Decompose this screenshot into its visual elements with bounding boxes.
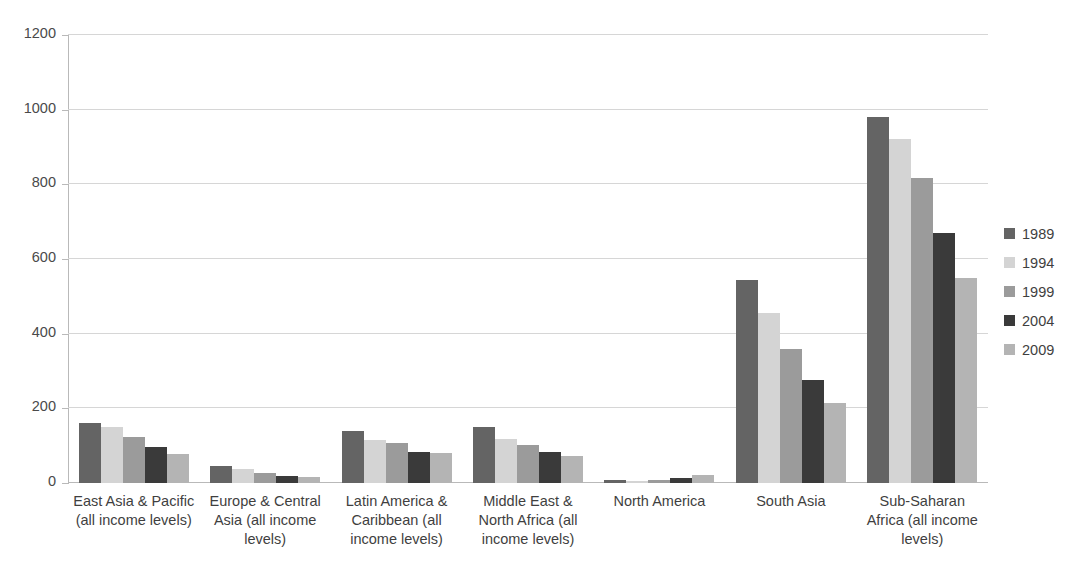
x-axis-label-line: Africa (all income [857,511,988,530]
legend-label: 2004 [1022,313,1054,329]
x-axis-label-line: Caribbean (all [331,511,462,530]
legend-swatch-icon [1004,228,1015,239]
bar[interactable] [101,427,123,483]
x-axis-label-line: North Africa (all [462,511,593,530]
bar[interactable] [342,431,364,483]
x-axis-label-line: levels) [199,530,330,549]
legend-item-2009[interactable]: 2009 [1004,335,1066,364]
x-axis-label: North America [594,492,725,511]
bar[interactable] [955,278,977,483]
x-axis-label-line: income levels) [331,530,462,549]
y-tick-mark [62,408,69,409]
bar[interactable] [867,117,889,483]
x-axis-label-line: levels) [857,530,988,549]
bar[interactable] [780,349,802,483]
x-axis-label-line: Latin America & [331,492,462,511]
bar[interactable] [911,178,933,483]
bar[interactable] [626,481,648,483]
y-tick-mark [62,483,69,484]
legend: 19891994199920042009 [1004,219,1066,364]
x-axis-label-line: income levels) [462,530,593,549]
bar[interactable] [364,440,386,483]
bar-group [867,35,977,483]
x-axis-label: Europe & CentralAsia (all incomelevels) [199,492,330,549]
y-tick-label: 600 [0,249,56,265]
bar[interactable] [430,453,452,483]
legend-swatch-icon [1004,257,1015,268]
x-axis-labels: East Asia & Pacific(all income levels)Eu… [68,492,988,570]
bar[interactable] [254,473,276,483]
bar-chart: 020040060080010001200 East Asia & Pacifi… [0,0,1066,573]
x-axis-label-line: North America [594,492,725,511]
bar[interactable] [889,139,911,483]
bar[interactable] [123,437,145,483]
legend-label: 1999 [1022,284,1054,300]
bar-group [604,35,714,483]
plot-area [68,35,988,483]
bar[interactable] [517,445,539,483]
y-tick-label: 400 [0,324,56,340]
y-tick-label: 1000 [0,100,56,116]
x-axis-label: East Asia & Pacific(all income levels) [68,492,199,530]
bar[interactable] [79,423,101,483]
y-tick-mark [62,184,69,185]
bar[interactable] [408,452,430,483]
x-axis-label: South Asia [725,492,856,511]
bar-group [342,35,452,483]
bar[interactable] [167,454,189,483]
bar[interactable] [604,480,626,483]
bar-group [210,35,320,483]
legend-item-2004[interactable]: 2004 [1004,306,1066,335]
x-axis-label: Middle East &North Africa (allincome lev… [462,492,593,549]
bar-group [79,35,189,483]
bar[interactable] [386,443,408,483]
x-axis-label-line: East Asia & Pacific [68,492,199,511]
bar[interactable] [298,477,320,483]
x-axis-label: Latin America &Caribbean (allincome leve… [331,492,462,549]
y-tick-mark [62,334,69,335]
x-axis-label-line: South Asia [725,492,856,511]
bar[interactable] [276,476,298,483]
x-axis-label-line: Middle East & [462,492,593,511]
bar[interactable] [473,427,495,483]
bar[interactable] [145,447,167,483]
legend-label: 1989 [1022,226,1054,242]
bar[interactable] [692,475,714,483]
bar[interactable] [802,380,824,483]
x-axis-label-line: Europe & Central [199,492,330,511]
y-tick-mark [62,110,69,111]
x-axis-label: Sub-SaharanAfrica (all incomelevels) [857,492,988,549]
y-tick-mark [62,259,69,260]
y-tick-label: 800 [0,174,56,190]
bar[interactable] [648,480,670,483]
y-tick-label: 0 [0,473,56,489]
bar[interactable] [561,456,583,483]
x-axis-label-line: (all income levels) [68,511,199,530]
legend-swatch-icon [1004,344,1015,355]
y-tick-mark [62,35,69,36]
bar[interactable] [670,478,692,483]
x-axis-label-line: Asia (all income [199,511,330,530]
bar[interactable] [539,452,561,483]
bar[interactable] [736,280,758,483]
y-tick-label: 200 [0,398,56,414]
x-axis-label-line: Sub-Saharan [857,492,988,511]
bar-group [736,35,846,483]
legend-swatch-icon [1004,286,1015,297]
legend-swatch-icon [1004,315,1015,326]
y-tick-label: 1200 [0,25,56,41]
legend-item-1999[interactable]: 1999 [1004,277,1066,306]
bar[interactable] [210,466,232,483]
bar[interactable] [824,403,846,483]
legend-item-1994[interactable]: 1994 [1004,248,1066,277]
legend-label: 1994 [1022,255,1054,271]
bar[interactable] [232,469,254,483]
legend-label: 2009 [1022,342,1054,358]
bar[interactable] [933,233,955,483]
bar-group [473,35,583,483]
bar[interactable] [495,439,517,483]
bar[interactable] [758,313,780,483]
legend-item-1989[interactable]: 1989 [1004,219,1066,248]
